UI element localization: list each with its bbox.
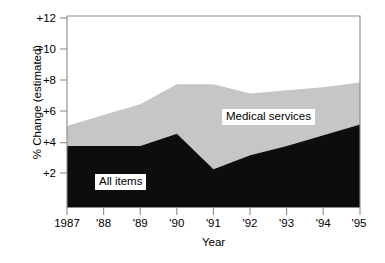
x-tick-label-1987: 1987 [54,217,80,229]
x-tick-label-1989: '89 [133,217,148,229]
y-axis-ticks [60,18,67,173]
x-tick-label-1991: '91 [206,217,221,229]
x-tick-label-1992: '92 [243,217,258,229]
series-label-medical-services: Medical services [222,109,315,125]
x-tick-label-1995: '95 [352,217,367,229]
x-tick-label-1993: '93 [279,217,294,229]
series-label-all-items: All items [95,174,146,190]
area-chart: % Change (estimated) +12 +10 +8 +6 +4 +2 [0,0,385,263]
x-tick-label-1994: '94 [316,217,331,229]
x-axis-ticks [67,208,360,216]
x-tick-label-1990: '90 [169,217,184,229]
x-tick-label-1988: '88 [96,217,111,229]
x-axis-title: Year [67,236,360,248]
